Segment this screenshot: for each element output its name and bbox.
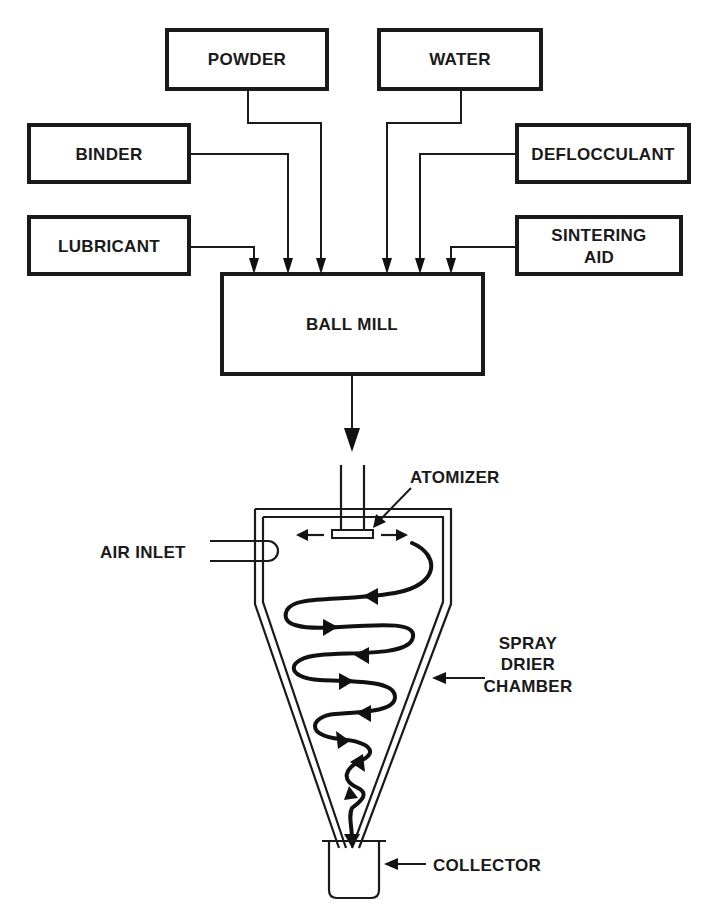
lubricant-box: LUBRICANT [29,217,189,274]
collector [322,841,386,898]
air-inlet-label: AIR INLET [100,543,186,562]
powder-label: POWDER [208,50,286,69]
process-diagram: POWDER WATER BINDER DEFLOCCULANT LUBRICA… [0,0,710,922]
water-label: WATER [429,50,491,69]
flow-arrow-icon [323,619,338,636]
flow-arrow-icon [336,731,350,749]
sintering-aid-label-2: AID [584,248,614,267]
chamber-pointer [432,672,485,684]
arrow-heads [249,258,456,274]
air-inlet [210,541,278,561]
chamber-label-1: SPRAY [499,634,558,653]
binder-label: BINDER [76,145,143,164]
collector-pointer [384,858,426,870]
sintering-aid-box: SINTERING AID [517,217,681,274]
chamber-label-3: CHAMBER [484,677,573,696]
flow-arrow-icon [350,754,365,772]
ball-mill-box: BALL MILL [222,274,483,374]
binder-box: BINDER [29,125,189,182]
powder-box: POWDER [167,30,327,89]
water-box: WATER [379,30,541,89]
atomizer-label: ATOMIZER [410,468,500,487]
chamber-label-2: DRIER [501,655,555,674]
flow-arrow-icon [354,647,369,664]
deflocculant-label: DEFLOCCULANT [531,145,675,164]
mill-output-arrow [344,374,360,452]
feed-connectors [189,89,517,262]
flow-arrow-icon [339,673,354,690]
lubricant-label: LUBRICANT [58,237,160,256]
collector-label: COLLECTOR [433,856,541,875]
sintering-aid-label-1: SINTERING [551,226,646,245]
flow-arrow-icon [363,588,378,605]
deflocculant-box: DEFLOCCULANT [517,125,689,182]
flow-arrow-icon [356,705,371,722]
ball-mill-label: BALL MILL [306,315,398,334]
atomizer [296,517,408,541]
